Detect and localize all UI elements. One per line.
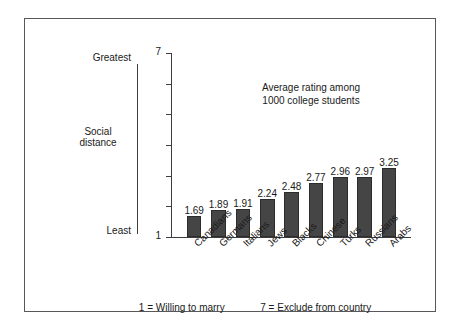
descriptor-label-social-distance-line1: Social: [65, 126, 131, 137]
descriptor-label-social-distance-line2: distance: [65, 137, 131, 148]
figure: Greatest Social distance Least 17 1.691.…: [0, 0, 459, 330]
bar-value-label: 2.97: [355, 166, 374, 177]
descriptor-label-greatest: Greatest: [65, 52, 131, 63]
scale-legend: 1 = Willing to marry 7 = Exclude from co…: [49, 302, 459, 314]
chart-annotation: Average rating among 1000 college studen…: [221, 81, 401, 107]
y-axis-tick: [166, 176, 172, 177]
scale-legend-min: 1 = Willing to marry: [139, 302, 225, 313]
bar-value-label: 2.24: [257, 188, 276, 199]
descriptor-label-social-distance: Social distance: [65, 126, 131, 148]
chart-annotation-line2: 1000 college students: [221, 94, 401, 107]
bar-value-label: 1.69: [184, 205, 203, 216]
y-axis-tick-label: 1: [155, 230, 161, 241]
bar-value-label: 2.96: [331, 166, 350, 177]
bar-value-label: 2.48: [282, 181, 301, 192]
y-axis-tick: [166, 206, 172, 207]
scale-legend-max: 7 = Exclude from country: [260, 302, 371, 313]
y-axis-tick: 7: [166, 53, 172, 54]
social-distance-axis-line: [137, 64, 138, 234]
chart-frame: Greatest Social distance Least 17 1.691.…: [24, 18, 436, 312]
bar-value-label: 3.25: [379, 157, 398, 168]
bar-value-label: 1.91: [233, 198, 252, 209]
descriptor-label-least: Least: [65, 225, 131, 236]
y-axis-tick-label: 7: [155, 46, 161, 57]
y-axis-tick: 1: [166, 237, 172, 238]
bar-value-label: 2.77: [306, 172, 325, 183]
y-axis-tick: [166, 145, 172, 146]
y-axis-tick: [166, 114, 172, 115]
y-axis-tick: [166, 84, 172, 85]
chart-annotation-line1: Average rating among: [221, 81, 401, 94]
